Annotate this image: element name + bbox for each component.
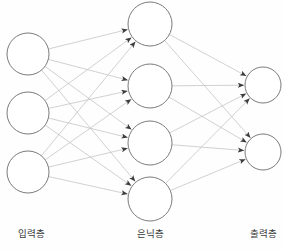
input-node-1 bbox=[7, 33, 49, 75]
input-layer-label: 입력층 bbox=[18, 228, 45, 239]
edge-hidden-output-3-2 bbox=[172, 145, 244, 151]
input-layer-nodes bbox=[7, 33, 49, 193]
edge-input-hidden-1-1 bbox=[48, 29, 127, 49]
output-layer-nodes bbox=[245, 67, 281, 170]
hidden-node-4 bbox=[128, 177, 172, 221]
hidden-node-2 bbox=[128, 64, 172, 108]
hidden-layer-nodes bbox=[128, 2, 172, 221]
edges-input-to-hidden bbox=[41, 29, 135, 194]
input-node-3 bbox=[7, 151, 49, 193]
hidden-node-1 bbox=[128, 2, 172, 46]
output-node-1 bbox=[245, 67, 281, 103]
edge-input-hidden-3-3 bbox=[48, 148, 127, 167]
edge-input-hidden-2-3 bbox=[48, 118, 127, 137]
edge-hidden-output-4-2 bbox=[170, 159, 245, 190]
network-canvas: 입력층 은닉층 출력층 bbox=[0, 0, 285, 250]
edge-input-hidden-2-1 bbox=[45, 38, 131, 101]
hidden-node-3 bbox=[128, 121, 172, 165]
output-layer-label: 출력층 bbox=[250, 228, 277, 239]
hidden-layer-label: 은닉층 bbox=[137, 228, 164, 239]
edge-hidden-output-2-1 bbox=[172, 85, 244, 86]
edge-input-hidden-2-4 bbox=[45, 125, 131, 186]
input-node-2 bbox=[7, 92, 49, 134]
edge-input-hidden-3-1 bbox=[41, 42, 135, 156]
edges-hidden-to-output bbox=[165, 34, 251, 190]
edge-input-hidden-1-2 bbox=[48, 59, 127, 80]
edge-input-hidden-3-4 bbox=[49, 177, 128, 194]
neural-network-diagram: 입력층 은닉층 출력층 bbox=[0, 0, 285, 250]
edge-hidden-output-1-1 bbox=[169, 34, 246, 76]
edge-input-hidden-1-3 bbox=[45, 66, 131, 129]
edge-input-hidden-1-4 bbox=[42, 70, 136, 181]
edge-hidden-output-4-1 bbox=[165, 98, 249, 183]
output-node-2 bbox=[245, 134, 281, 170]
